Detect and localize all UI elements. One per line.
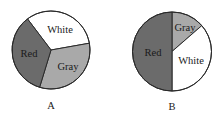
pie-a-caption: A (47, 100, 55, 111)
pie-b-label-white: White (178, 55, 204, 66)
pie-chart-a: White Gray Red A (12, 11, 90, 111)
pie-b-caption: B (168, 101, 175, 112)
pie-chart-b: Gray White Red B (133, 12, 212, 112)
pie-b-label-gray: Gray (175, 22, 197, 33)
pie-charts-figure: White Gray Red A Gray White Red B (0, 0, 212, 118)
pie-a-label-red: Red (21, 48, 39, 59)
pie-a-label-white: White (47, 24, 73, 35)
pie-b-label-red: Red (145, 47, 163, 58)
pie-a-label-gray: Gray (58, 61, 80, 72)
